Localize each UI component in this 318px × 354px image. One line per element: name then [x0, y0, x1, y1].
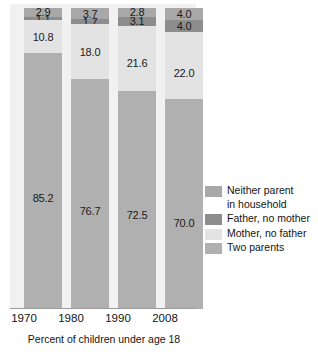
bar-segment-neither-parent: 4.0 — [165, 8, 203, 20]
x-axis-title: Percent of children under age 18 — [0, 333, 208, 345]
bar-segment-value: 70.0 — [165, 217, 203, 229]
bar-segment-mother-no-father: 18.0 — [71, 24, 109, 78]
bar-segment-two-parents: 70.0 — [165, 99, 203, 309]
x-tick-label-1990: 1990 — [95, 312, 141, 324]
bar-1970: 2.9 1.1 10.8 85.2 — [24, 8, 62, 309]
x-tick-label-2008: 2008 — [142, 312, 188, 324]
bar-segment-father-no-mother: 3.1 — [118, 17, 156, 26]
legend-item-neither-parent: Neither parent in household — [205, 184, 317, 211]
x-axis-line — [10, 308, 196, 309]
legend-item-label: Father, no mother — [227, 212, 310, 226]
bar-segment-value: 4.0 — [165, 8, 203, 20]
chart-figure: 2.9 1.1 10.8 85.2 3.7 1.7 18.0 — [0, 0, 318, 354]
legend-swatch-icon — [205, 214, 222, 225]
legend-swatch-icon — [205, 243, 222, 254]
bar-segment-two-parents: 85.2 — [24, 53, 62, 309]
bar-segment-father-no-mother: 4.0 — [165, 20, 203, 32]
bar-segment-value: 22.0 — [165, 67, 203, 79]
legend-item-label: Neither parent in household — [227, 184, 294, 211]
bar-segment-two-parents: 76.7 — [71, 79, 109, 309]
bar-segment-value: 85.2 — [24, 192, 62, 204]
legend-item-two-parents: Two parents — [205, 241, 317, 255]
bar-segment-value: 4.0 — [165, 20, 203, 32]
legend-item-mother-no-father: Mother, no father — [205, 227, 317, 241]
x-tick-label-1970: 1970 — [1, 312, 47, 324]
x-tick-label-1980: 1980 — [48, 312, 94, 324]
bar-segment-mother-no-father: 22.0 — [165, 32, 203, 99]
plot-area: 2.9 1.1 10.8 85.2 3.7 1.7 18.0 — [10, 4, 196, 309]
bar-segment-two-parents: 72.5 — [118, 91, 156, 309]
legend-swatch-icon — [205, 229, 222, 240]
bar-segment-value: 18.0 — [71, 46, 109, 58]
bar-segment-value: 72.5 — [118, 209, 156, 221]
legend: Neither parent in household Father, no m… — [205, 184, 317, 256]
bar-segment-mother-no-father: 21.6 — [118, 26, 156, 91]
legend-item-label: Two parents — [227, 241, 284, 255]
legend-item-father-no-mother: Father, no mother — [205, 212, 317, 226]
bar-1990: 2.8 3.1 21.6 72.5 — [118, 8, 156, 309]
bar-segment-mother-no-father: 10.8 — [24, 20, 62, 53]
bar-segment-value: 76.7 — [71, 205, 109, 217]
legend-swatch-icon — [205, 186, 222, 197]
bar-segment-value: 10.8 — [24, 31, 62, 43]
legend-item-label: Mother, no father — [227, 227, 306, 241]
bar-1980: 3.7 1.7 18.0 76.7 — [71, 8, 109, 309]
bar-2008: 4.0 4.0 22.0 70.0 — [165, 8, 203, 309]
bar-segment-value: 21.6 — [118, 57, 156, 69]
